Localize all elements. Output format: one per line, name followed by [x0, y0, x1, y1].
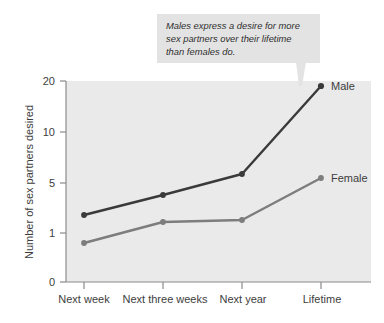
- data-point-female-3: [318, 175, 324, 181]
- data-point-female-0: [81, 240, 87, 246]
- series-label-female: Female: [331, 172, 368, 184]
- y-tick-label-10: 10: [43, 126, 55, 138]
- x-tick-label-next-three-weeks: Next three weeks: [123, 293, 208, 305]
- callout-line-1: Males express a desire for more: [166, 20, 300, 31]
- x-tick-label-lifetime: Lifetime: [303, 293, 342, 305]
- y-tick-label-0: 0: [49, 276, 55, 288]
- data-point-male-1: [160, 192, 166, 198]
- data-point-male-2: [239, 171, 245, 177]
- plot-background: [66, 81, 371, 282]
- data-point-female-1: [160, 219, 166, 225]
- y-tick-label-20: 20: [43, 75, 55, 87]
- x-tick-label-next-week: Next week: [58, 293, 110, 305]
- chart-figure: Males express a desire for more sex part…: [0, 0, 384, 323]
- y-tick-label-5: 5: [49, 177, 55, 189]
- line-chart-svg: Males express a desire for more sex part…: [0, 0, 384, 323]
- callout-line-3: than females do.: [166, 46, 235, 57]
- series-label-male: Male: [331, 80, 355, 92]
- data-point-male-0: [81, 212, 87, 218]
- x-tick-label-next-year: Next year: [219, 293, 266, 305]
- y-axis-title: Number of sex partners desired: [23, 105, 35, 259]
- data-point-male-3: [318, 83, 324, 89]
- callout-line-2: sex partners over their lifetime: [166, 33, 292, 44]
- data-point-female-2: [239, 217, 245, 223]
- y-tick-label-1: 1: [49, 227, 55, 239]
